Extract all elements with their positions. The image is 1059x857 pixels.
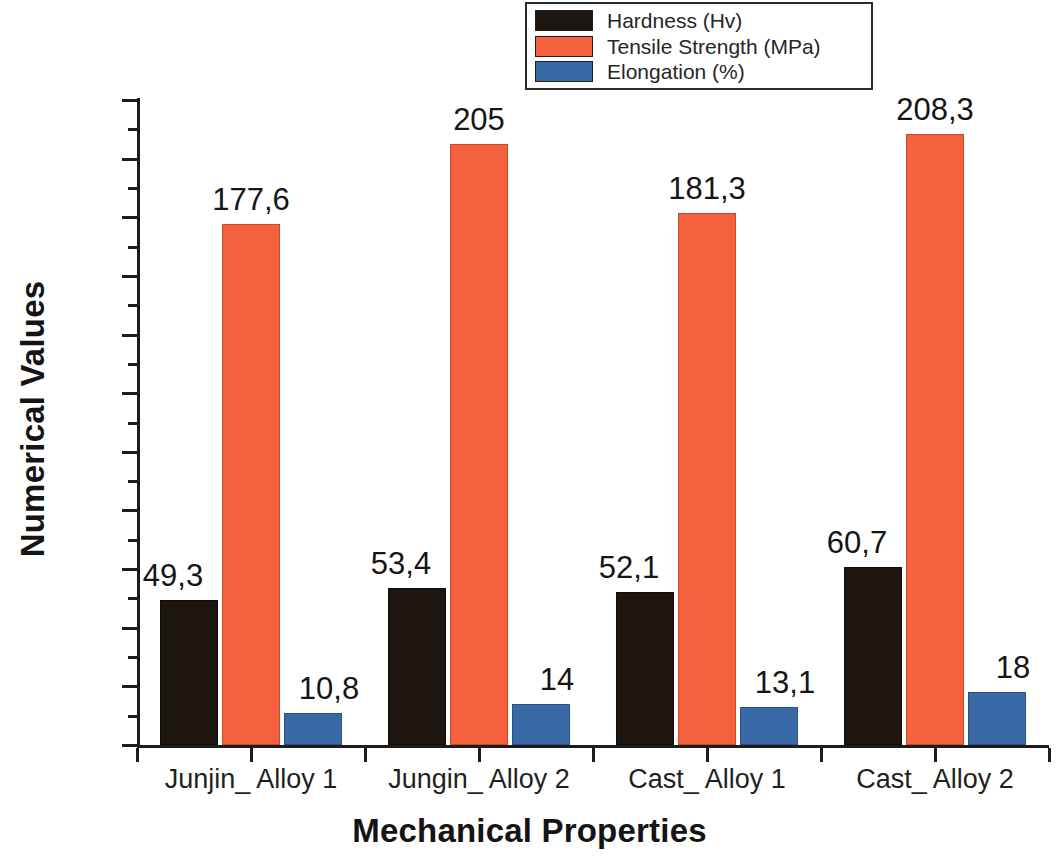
y-tick-major [122, 744, 137, 747]
x-tick-minor [250, 748, 253, 762]
y-tick-minor [128, 656, 137, 659]
bar-value-label: 181,3 [632, 173, 782, 204]
bar-value-label: 14 [482, 664, 632, 695]
legend-label-tensile-strength: Tensile Strength (MPa) [607, 36, 821, 57]
bar-value-label: 205 [404, 104, 554, 135]
y-tick-minor [128, 363, 137, 366]
y-tick-minor [128, 128, 137, 131]
y-axis-title: Numerical Values [14, 179, 52, 659]
y-tick-major [122, 216, 137, 219]
bar-elongation [968, 692, 1026, 745]
y-tick-major [122, 509, 137, 512]
bar-hardness [616, 592, 674, 745]
x-tick [136, 748, 139, 762]
x-category-label: Cast_ Alloy 1 [593, 766, 821, 793]
bar-elongation [740, 707, 798, 745]
y-tick-major [122, 99, 137, 102]
x-tick [1048, 748, 1051, 762]
x-category-label: Cast_ Alloy 2 [821, 766, 1049, 793]
y-tick-minor [128, 480, 137, 483]
legend-label-elongation: Elongation (%) [607, 61, 745, 82]
y-tick-major [122, 451, 137, 454]
legend-label-hardness: Hardness (Hv) [607, 10, 742, 31]
x-tick-minor [934, 748, 937, 762]
y-tick-minor [128, 539, 137, 542]
y-axis-line [137, 98, 140, 747]
x-category-label: Junjin_ Alloy 1 [137, 766, 365, 793]
bar-tensile [450, 144, 508, 745]
chart-legend: Hardness (Hv) Tensile Strength (MPa) Elo… [525, 2, 873, 90]
y-tick-minor [128, 422, 137, 425]
y-tick-minor [128, 187, 137, 190]
y-tick-minor [128, 246, 137, 249]
x-tick-minor [478, 748, 481, 762]
y-tick-major [122, 627, 137, 630]
legend-swatch-elongation [535, 61, 593, 82]
bar-tensile [678, 213, 736, 745]
y-tick-major [122, 334, 137, 337]
x-tick [364, 748, 367, 762]
legend-item-hardness: Hardness (Hv) [535, 8, 865, 33]
x-tick-minor [706, 748, 709, 762]
x-tick [820, 748, 823, 762]
bar-hardness [160, 600, 218, 745]
bar-elongation [284, 713, 342, 745]
legend-swatch-hardness [535, 10, 593, 31]
bar-value-label: 13,1 [710, 667, 860, 698]
y-tick-minor [128, 597, 137, 600]
bar-value-label: 10,8 [254, 673, 404, 704]
y-tick-major [122, 685, 137, 688]
bar-hardness [388, 588, 446, 745]
bar-hardness [844, 567, 902, 745]
y-tick-minor [128, 304, 137, 307]
bar-value-label: 18 [938, 652, 1059, 683]
bar-value-label: 208,3 [860, 94, 1010, 125]
y-tick-major [122, 392, 137, 395]
y-tick-major [122, 158, 137, 161]
y-tick-major [122, 275, 137, 278]
x-axis-title: Mechanical Properties [0, 812, 1059, 850]
bar-tensile [222, 224, 280, 745]
x-category-label: Jungin_ Alloy 2 [365, 766, 593, 793]
bar-value-label: 177,6 [176, 184, 326, 215]
legend-item-tensile-strength: Tensile Strength (MPa) [535, 34, 865, 59]
x-tick [592, 748, 595, 762]
legend-swatch-tensile-strength [535, 36, 593, 57]
y-tick-minor [128, 715, 137, 718]
bar-elongation [512, 704, 570, 745]
legend-item-elongation: Elongation (%) [535, 59, 865, 84]
